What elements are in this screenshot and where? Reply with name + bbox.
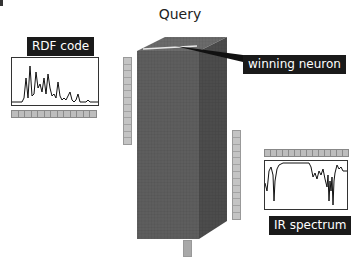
vector-cell	[124, 98, 131, 105]
vector-cell	[233, 158, 240, 165]
vector-cell	[124, 118, 131, 125]
vector-cell	[124, 132, 131, 139]
vector-cell	[233, 165, 240, 172]
vector-cell	[124, 112, 131, 119]
rdf-code-label: RDF code	[27, 37, 94, 56]
cube-bottom-stub	[183, 240, 192, 257]
rdf-curve	[12, 58, 98, 105]
ir-plot	[264, 160, 348, 210]
vector-cell	[233, 179, 240, 186]
cube-front-face	[137, 51, 199, 239]
vector-cell	[124, 78, 131, 85]
ir-output-vector	[264, 149, 349, 157]
vector-cell	[233, 172, 240, 179]
vector-cell	[124, 105, 131, 112]
vector-cell	[90, 111, 96, 117]
vector-cell	[233, 186, 240, 193]
vector-cell	[124, 85, 131, 92]
right-weight-vector	[232, 130, 241, 220]
vector-cell	[124, 65, 131, 72]
rdf-input-vector	[11, 110, 97, 118]
vector-cell	[233, 213, 240, 219]
vector-cell	[233, 138, 240, 145]
diagram-title: Query	[0, 6, 360, 22]
vector-cell	[124, 58, 131, 65]
vector-cell	[124, 138, 131, 144]
ir-spectrum-label: IR spectrum	[269, 216, 351, 235]
neuron-pointer-line	[175, 40, 245, 70]
vector-cell	[233, 145, 240, 152]
winning-neuron-label: winning neuron	[243, 55, 346, 74]
vector-cell	[124, 125, 131, 132]
rdf-plot	[11, 57, 99, 106]
vector-cell	[233, 152, 240, 159]
vector-cell	[233, 206, 240, 213]
left-weight-vector	[123, 57, 132, 145]
vector-cell	[124, 71, 131, 78]
vector-cell	[233, 193, 240, 200]
vector-cell	[233, 199, 240, 206]
vector-cell	[233, 131, 240, 138]
vector-cell	[124, 91, 131, 98]
ir-curve	[265, 161, 347, 209]
vector-cell	[343, 150, 348, 156]
